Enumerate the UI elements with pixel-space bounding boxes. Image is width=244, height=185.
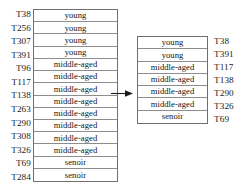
- table-row: senoir: [138, 111, 207, 123]
- arrow-right-icon: [111, 84, 135, 93]
- row-id-label: T263: [11, 104, 31, 114]
- table-row: young: [34, 10, 117, 22]
- table-row: middle-aged: [34, 108, 117, 120]
- row-id-label: T290: [214, 88, 234, 98]
- right-table-grid: youngyoungmiddle-agedmiddle-agedmiddle-a…: [137, 36, 208, 124]
- table-row: middle-aged: [34, 132, 117, 144]
- row-id-label: T69: [214, 114, 229, 124]
- row-id-label: T308: [11, 131, 31, 141]
- table-row: young: [138, 49, 207, 61]
- table-row: middle-aged: [138, 86, 207, 98]
- row-id-label: T326: [214, 101, 234, 111]
- table-row: middle-aged: [34, 83, 117, 95]
- row-id-label: T391: [214, 49, 234, 59]
- table-row: middle-aged: [138, 74, 207, 86]
- row-id-label: T138: [11, 90, 31, 100]
- row-id-label: T117: [12, 77, 31, 87]
- table-row: young: [34, 22, 117, 34]
- row-id-label: T117: [214, 62, 233, 72]
- left-table-grid: youngyoungyoungyoungmiddle-agedmiddle-ag…: [33, 9, 118, 182]
- table-row: senoir: [34, 157, 117, 169]
- table-row: middle-aged: [138, 98, 207, 110]
- left-table-row-id-column: T38T256T307T391T96T117T138T263T290T308T3…: [0, 9, 33, 182]
- row-id-label: T96: [16, 63, 31, 73]
- table-row: young: [34, 47, 117, 59]
- right-table-block: youngyoungmiddle-agedmiddle-agedmiddle-a…: [137, 36, 241, 124]
- table-row: middle-aged: [34, 59, 117, 71]
- row-id-label: T256: [11, 23, 31, 33]
- table-row: senoir: [34, 169, 117, 181]
- row-id-label: T326: [11, 145, 31, 155]
- row-id-label: T284: [11, 172, 31, 182]
- row-id-label: T307: [11, 36, 31, 46]
- table-row: middle-aged: [34, 120, 117, 132]
- row-id-label: T69: [16, 158, 31, 168]
- row-id-label: T38: [16, 9, 31, 19]
- row-id-label: T391: [11, 50, 31, 60]
- left-table-block: T38T256T307T391T96T117T138T263T290T308T3…: [0, 9, 118, 182]
- diagram-canvas: T38T256T307T391T96T117T138T263T290T308T3…: [0, 0, 244, 185]
- table-row: young: [138, 37, 207, 49]
- table-row: middle-aged: [34, 144, 117, 156]
- table-row: middle-aged: [138, 62, 207, 74]
- row-id-label: T38: [214, 36, 229, 46]
- table-row: young: [34, 34, 117, 46]
- row-id-label: T290: [11, 118, 31, 128]
- table-row: middle-aged: [34, 71, 117, 83]
- right-table-row-id-column: T38T391T117T138T290T326T69: [208, 36, 241, 124]
- row-id-label: T138: [214, 75, 234, 85]
- table-row: middle-aged: [34, 96, 117, 108]
